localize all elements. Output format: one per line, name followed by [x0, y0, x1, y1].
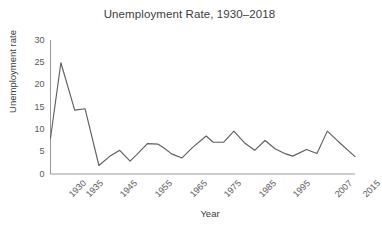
data-series-line — [51, 63, 356, 166]
